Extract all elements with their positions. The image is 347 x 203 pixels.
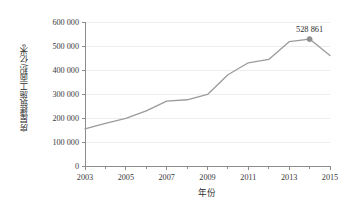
y-tick-label: 100 000: [52, 138, 79, 147]
x-tick-label: 2015: [322, 173, 338, 182]
x-tick-label: 2013: [281, 173, 297, 182]
x-tick-label: 2009: [199, 173, 215, 182]
gridlines-group: [85, 22, 330, 142]
data-point-label: 528 861: [296, 25, 323, 34]
chart-figure: 房屋建筑施工面积/亿米³ 0100 000200 000300 000400 0…: [0, 0, 347, 203]
x-tick-label: 2003: [77, 173, 93, 182]
x-tick-label: 2007: [158, 173, 174, 182]
data-series-line: [85, 39, 330, 129]
y-tick-label: 300 000: [52, 90, 79, 99]
y-tick-label: 0: [75, 162, 79, 171]
data-markers-group: [307, 36, 312, 41]
y-axis-ticks-group: 0100 000200 000300 000400 000500 000600 …: [52, 18, 85, 171]
data-annotations-group: 528 861: [296, 25, 323, 34]
x-tick-label: 2005: [118, 173, 134, 182]
data-point-marker: [307, 36, 312, 41]
y-tick-label: 400 000: [52, 66, 79, 75]
x-axis-title: 年份: [198, 187, 216, 198]
x-axis-ticks-group: 2003200520072009201120132015: [77, 166, 338, 182]
y-tick-label: 600 000: [52, 18, 79, 27]
y-tick-label: 200 000: [52, 114, 79, 123]
y-tick-label: 500 000: [52, 42, 79, 51]
line-chart-plot: 0100 000200 000300 000400 000500 000600 …: [0, 0, 347, 203]
x-tick-label: 2011: [240, 173, 256, 182]
